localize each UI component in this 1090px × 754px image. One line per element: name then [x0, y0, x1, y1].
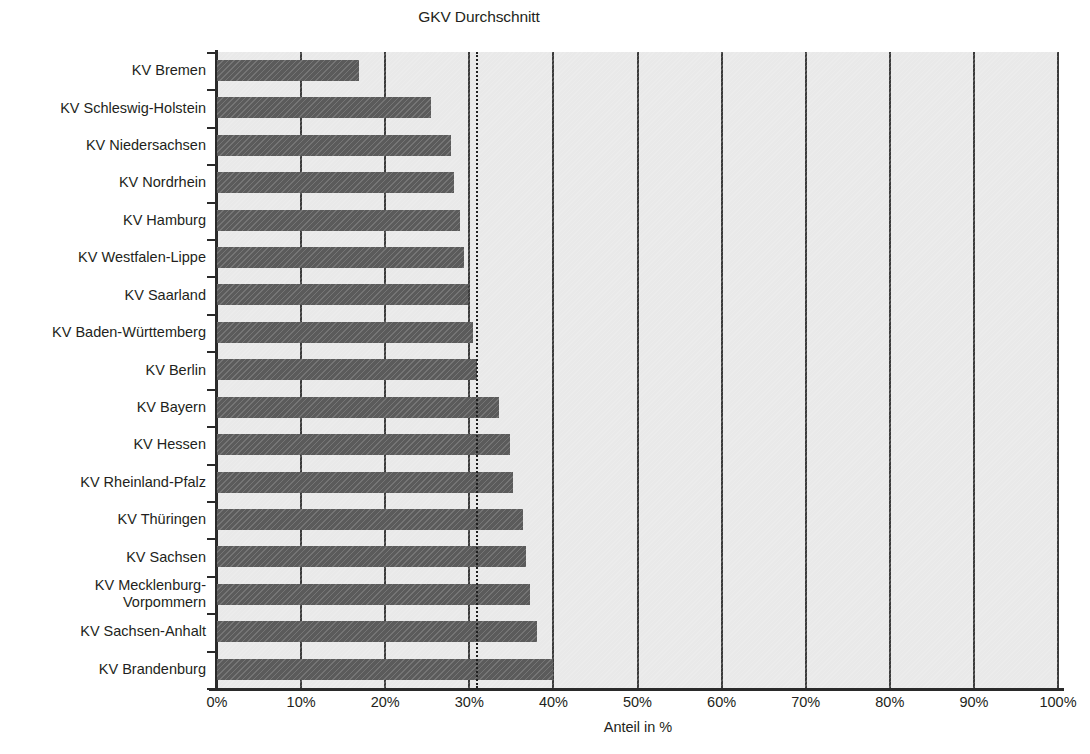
bar-row	[217, 314, 1058, 351]
x-tick-label: 40%	[539, 694, 568, 710]
category-label: KV Hessen	[0, 436, 206, 453]
x-tick-label: 100%	[1039, 694, 1076, 710]
plot-area	[217, 52, 1058, 688]
category-label-line: KV Westfalen-Lippe	[0, 249, 206, 266]
y-axis-tick	[207, 464, 216, 466]
category-label-line: KV Bremen	[0, 62, 206, 79]
y-axis-tick	[207, 576, 216, 578]
bar-row	[217, 52, 1058, 89]
category-label-line: KV Sachsen	[0, 549, 206, 566]
bar	[217, 247, 464, 268]
x-axis-title-text: Anteil in %	[604, 719, 673, 735]
bar-row	[217, 576, 1058, 613]
y-axis-tick	[207, 351, 216, 353]
bar-row	[217, 127, 1058, 164]
category-label: KV Westfalen-Lippe	[0, 249, 206, 266]
category-label-line: KV Saarland	[0, 287, 206, 304]
bar	[217, 621, 537, 642]
bar	[217, 472, 513, 493]
x-axis-line	[209, 688, 1064, 691]
category-label-line: KV Rheinland-Pfalz	[0, 474, 206, 491]
y-axis-tick	[207, 501, 216, 503]
y-axis-tick	[207, 651, 216, 653]
y-axis-tick	[207, 202, 216, 204]
x-tick-label: 20%	[371, 694, 400, 710]
category-label: KV Rheinland-Pfalz	[0, 474, 206, 491]
bar-row	[217, 501, 1058, 538]
y-axis-tick	[207, 52, 216, 54]
bar	[217, 97, 431, 118]
bar-row	[217, 651, 1058, 688]
category-label: KV Sachsen	[0, 549, 206, 566]
bar	[217, 172, 454, 193]
category-label-line: KV Mecklenburg-	[0, 577, 206, 594]
bar-row	[217, 538, 1058, 575]
category-label-line: KV Nordrhein	[0, 174, 206, 191]
category-label-line: KV Berlin	[0, 362, 206, 379]
bar-row	[217, 164, 1058, 201]
category-label-line: KV Baden-Württemberg	[0, 324, 206, 341]
category-label: KV Saarland	[0, 287, 206, 304]
y-axis-tick	[207, 276, 216, 278]
category-label-line: KV Hamburg	[0, 212, 206, 229]
bar-row	[217, 389, 1058, 426]
y-axis-tick	[207, 314, 216, 316]
category-label: KV Niedersachsen	[0, 137, 206, 154]
chart-title: GKV Durchschnitt	[408, 8, 550, 26]
x-axis-title: Anteil in %	[0, 719, 1090, 735]
category-label: KV Bremen	[0, 62, 206, 79]
category-label-line: KV Bayern	[0, 399, 206, 416]
category-label: KV Berlin	[0, 362, 206, 379]
bar	[217, 584, 530, 605]
y-axis-tick	[207, 164, 216, 166]
bar-row	[217, 426, 1058, 463]
category-label: KV Bayern	[0, 399, 206, 416]
category-label-line: Vorpommern	[0, 594, 206, 611]
bar-row	[217, 464, 1058, 501]
bar	[217, 659, 553, 680]
y-axis-tick	[207, 389, 216, 391]
category-label-line: KV Sachsen-Anhalt	[0, 623, 206, 640]
bar	[217, 397, 499, 418]
bar-row	[217, 351, 1058, 388]
y-axis-tick	[207, 688, 216, 690]
x-tick-label: 50%	[623, 694, 652, 710]
category-label-line: KV Thüringen	[0, 511, 206, 528]
category-label: KV Brandenburg	[0, 661, 206, 678]
bar	[217, 60, 359, 81]
bar	[217, 546, 526, 567]
category-label: KV Thüringen	[0, 511, 206, 528]
x-tick-label: 0%	[207, 694, 228, 710]
x-tick-label: 60%	[707, 694, 736, 710]
y-axis-tick	[207, 127, 216, 129]
average-reference-line	[476, 52, 478, 688]
category-label-line: KV Niedersachsen	[0, 137, 206, 154]
y-axis-tick	[207, 613, 216, 615]
x-tick-label: 70%	[791, 694, 820, 710]
bar-chart: GKV Durchschnitt KV BremenKV Schleswig-H…	[0, 0, 1090, 754]
category-label: KV Nordrhein	[0, 174, 206, 191]
y-axis-tick	[207, 239, 216, 241]
x-tick-label: 80%	[875, 694, 904, 710]
bar-row	[217, 613, 1058, 650]
bar	[217, 284, 468, 305]
y-axis-tick	[207, 538, 216, 540]
x-tick-label: 30%	[455, 694, 484, 710]
category-label-line: KV Brandenburg	[0, 661, 206, 678]
bar	[217, 434, 510, 455]
bar	[217, 135, 451, 156]
bar	[217, 322, 473, 343]
category-label: KV Schleswig-Holstein	[0, 100, 206, 117]
category-label-line: KV Schleswig-Holstein	[0, 100, 206, 117]
bar-row	[217, 276, 1058, 313]
y-axis-tick	[207, 426, 216, 428]
bar-row	[217, 89, 1058, 126]
bar-row	[217, 239, 1058, 276]
category-label: KV Sachsen-Anhalt	[0, 623, 206, 640]
category-label: KV Mecklenburg-Vorpommern	[0, 577, 206, 611]
bar	[217, 210, 460, 231]
y-axis-tick	[207, 89, 216, 91]
x-tick-label: 90%	[959, 694, 988, 710]
category-label-line: KV Hessen	[0, 436, 206, 453]
x-tick-label: 10%	[287, 694, 316, 710]
